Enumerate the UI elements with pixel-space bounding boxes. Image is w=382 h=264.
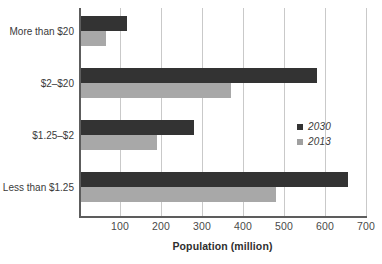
plot-area: 2030 2013 (79, 8, 366, 216)
x-tick-label-600: 600 (316, 220, 334, 232)
y-tick-label-1: $2–$20 (41, 78, 74, 89)
x-axis-title: Population (million) (79, 240, 366, 252)
bar-2013-less-than-125 (79, 187, 276, 202)
x-tick-label-100: 100 (111, 220, 129, 232)
x-tick-label-200: 200 (152, 220, 170, 232)
y-tick-label-3: Less than $1.25 (3, 182, 74, 193)
y-axis-labels: More than $20 $2–$20 $1.25–$2 Less than … (0, 0, 74, 264)
y-tick-label-2: $1.25–$2 (32, 130, 74, 141)
legend-label-2013: 2013 (308, 136, 331, 147)
legend-item-2030: 2030 (297, 120, 331, 133)
bar-2013-more-than-20 (79, 31, 106, 46)
legend-swatch-icon-2030 (297, 124, 303, 130)
bar-2013-2-to-20 (79, 83, 231, 98)
x-tick-label-700: 700 (357, 220, 375, 232)
bar-2030-less-than-125 (79, 172, 348, 187)
x-axis-line (79, 216, 367, 218)
y-axis-line (79, 8, 81, 216)
bar-2030-more-than-20 (79, 16, 127, 31)
legend: 2030 2013 (297, 120, 331, 150)
legend-label-2030: 2030 (308, 121, 331, 132)
x-tick-label-400: 400 (234, 220, 252, 232)
legend-item-2013: 2013 (297, 135, 331, 148)
legend-swatch-icon-2013 (297, 139, 303, 145)
bar-chart: More than $20 $2–$20 $1.25–$2 Less than … (0, 0, 382, 264)
y-tick-label-0: More than $20 (10, 26, 75, 37)
gridline-700 (366, 8, 367, 216)
bar-2030-2-to-20 (79, 68, 317, 83)
bar-2013-125-to-2 (79, 135, 157, 150)
x-tick-label-300: 300 (193, 220, 211, 232)
x-tick-label-500: 500 (275, 220, 293, 232)
bar-2030-125-to-2 (79, 120, 194, 135)
